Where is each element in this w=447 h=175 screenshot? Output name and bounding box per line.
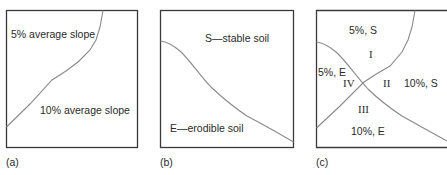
panel-a-caption: (a) [6, 156, 19, 168]
panel-a: 5% average slope 10% average slope (a) [6, 11, 138, 169]
panel-c-zone-ii: II [383, 77, 391, 89]
panel-c-zone-iii: III [358, 103, 369, 115]
panel-c-zone-i: I [369, 48, 373, 60]
panel-b-caption: (b) [160, 156, 173, 168]
panel-c-zone-iv: IV [343, 77, 355, 89]
panel-c-label-10-s: 10%, S [404, 77, 438, 89]
panel-c-caption: (c) [316, 156, 328, 168]
panel-c-label-5-e: 5%, E [318, 66, 346, 78]
panel-b-region-top-label: S—stable soil [205, 32, 269, 44]
soil-slope-diagram: 5% average slope 10% average slope (a) S… [0, 0, 447, 175]
panel-c: 5%, S I 5%, E IV II 10%, S III 10%, E (c… [316, 11, 447, 169]
panel-a-region-bottom-label: 10% average slope [40, 104, 130, 116]
panel-a-region-top-label: 5% average slope [11, 28, 95, 40]
panel-b: S—stable soil E—erodible soil (b) [160, 11, 294, 169]
panel-c-label-5-s: 5%, S [349, 24, 377, 36]
panel-c-label-10-e: 10%, E [351, 125, 385, 137]
panel-b-region-bottom-label: E—erodible soil [170, 122, 244, 134]
